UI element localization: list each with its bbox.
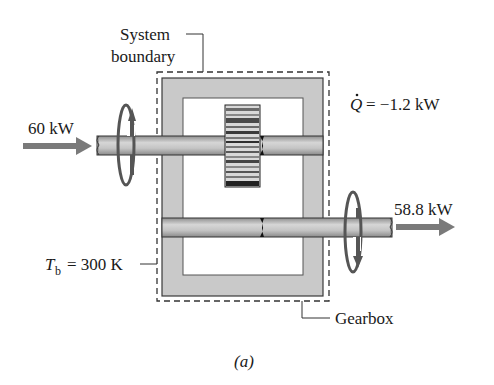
figure-caption: (a)	[234, 352, 254, 371]
temperature-subscript: b	[55, 264, 61, 278]
heat-dot-icon	[356, 94, 359, 97]
input-shaft	[97, 136, 323, 155]
system-boundary-label-line2: boundary	[111, 47, 176, 66]
gearbox-diagram: System boundary Q = −1.2 kW 60 kW 58.8 k…	[0, 0, 494, 385]
gearbox-leader	[302, 301, 330, 318]
system-boundary-leader	[186, 34, 203, 72]
system-boundary-label-line1: System	[120, 25, 170, 44]
input-power-arrow-icon	[23, 137, 92, 155]
heat-rate-value: = −1.2 kW	[366, 95, 440, 114]
output-power-label: 58.8 kW	[394, 200, 454, 219]
heat-symbol: Q	[350, 95, 362, 114]
gear-icon	[225, 105, 260, 187]
output-power-arrow-icon	[396, 218, 455, 236]
temperature-value: = 300 K	[67, 255, 124, 274]
gearbox-label: Gearbox	[335, 309, 394, 328]
boundary-temperature-label: T b = 300 K	[45, 255, 124, 278]
heat-rate-label: Q = −1.2 kW	[350, 94, 440, 114]
output-shaft	[162, 218, 392, 237]
input-power-label: 60 kW	[28, 119, 75, 138]
